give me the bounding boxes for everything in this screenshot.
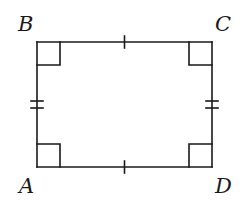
right-angle-marker-c	[189, 42, 212, 65]
vertex-label-a: A	[19, 176, 34, 197]
right-angle-marker-b	[37, 42, 60, 65]
right-angle-marker-d	[189, 144, 212, 167]
vertex-label-d: D	[215, 176, 232, 197]
right-angle-marker-a	[37, 144, 60, 167]
vertex-label-b: B	[18, 14, 33, 35]
vertex-label-c: C	[215, 14, 231, 35]
rectangle-abcd-diagram	[0, 0, 245, 205]
